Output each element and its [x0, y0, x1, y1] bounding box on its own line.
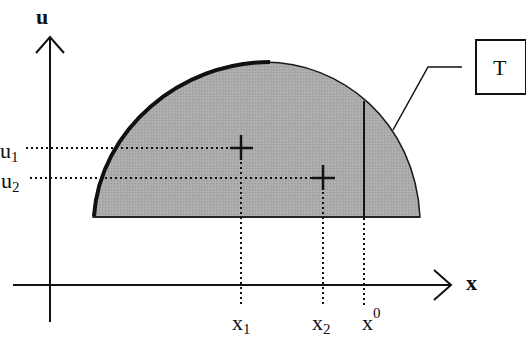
region-t-shape [93, 62, 420, 217]
u1-label: u1 [0, 138, 19, 165]
x1-label: x1 [232, 310, 251, 337]
x-axis-label: x [466, 270, 477, 295]
diagram-canvas: u x u1 u2 x1 x2 x0 T [0, 0, 526, 339]
u2-label: u2 [1, 168, 20, 195]
u-axis-label: u [36, 4, 48, 29]
region-t-label: T [493, 55, 507, 80]
x2-label: x2 [312, 310, 331, 337]
region-t-leader-line [393, 67, 462, 130]
x0-label: x0 [362, 305, 381, 335]
